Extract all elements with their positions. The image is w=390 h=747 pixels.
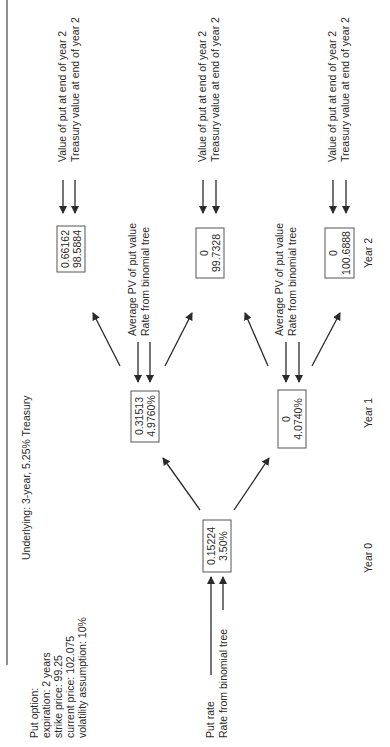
node-value: 0 [327, 250, 339, 256]
node-rate: 4.9760% [145, 395, 157, 436]
node-value: 0.66162 [59, 230, 71, 268]
legend-rate: Rate from binomial tree [139, 227, 151, 336]
legend-average-pv: Average PV of put value [273, 223, 285, 336]
branch-arrow-icon [234, 458, 269, 510]
node-year2-uu: 0.66162 98.5884 [57, 226, 85, 272]
put-option-heading: Put option: [28, 688, 40, 738]
year2-legend-ud: Value of put at end of year 2 Treasury v… [196, 17, 221, 213]
put-option-strike: strike price: 99.25 [52, 655, 64, 738]
legend-rate: Rate from binomial tree [286, 227, 298, 336]
node-year0: 0.15224 3.50% [203, 520, 231, 572]
node-rate: 99.7328 [210, 234, 222, 272]
legend-treasury-value: Treasury value at end of year 2 [69, 17, 81, 162]
legend-average-pv: Average PV of put value [126, 223, 138, 336]
legend-treasury-value: Treasury value at end of year 2 [209, 17, 221, 162]
branch-arrow-icon [312, 313, 340, 366]
put-option-volatility: volatility assumption: 10% [76, 617, 88, 738]
legend-value-of-put: Value of put at end of year 2 [326, 31, 338, 162]
legend-treasury-value: Treasury value at end of year 2 [339, 17, 351, 162]
legend-value-of-put: Value of put at end of year 2 [196, 31, 208, 162]
year-label-2: Year 2 [362, 238, 374, 268]
node-value: 0.15224 [205, 527, 217, 565]
node-year1-up: 0.31513 4.9760% [131, 391, 159, 442]
node-rate: 3.50% [217, 531, 229, 561]
put-option-current-price: current price: 102.075 [64, 636, 76, 738]
node-year2-ud: 0 99.7328 [196, 228, 224, 278]
branch-arrow-icon [245, 313, 268, 366]
year2-legend-uu: Value of put at end of year 2 Treasury v… [56, 17, 81, 213]
year-label-0: Year 0 [362, 543, 374, 573]
year2-legend-dd: Value of put at end of year 2 Treasury v… [326, 17, 351, 213]
year1-legend-up: Average PV of put value Rate from binomi… [126, 223, 151, 382]
branch-arrow-icon [93, 313, 120, 366]
node-value: 0.31513 [133, 397, 145, 435]
year-label-1: Year 1 [362, 398, 374, 428]
put-option-info: Put option: expiration: 2 years strike p… [28, 617, 88, 738]
binomial-tree-diagram: Underlying: 3-year, 5.25% Treasury Put o… [0, 0, 390, 747]
node-rate: 4.0740% [292, 398, 304, 439]
branch-arrow-icon [165, 313, 192, 366]
node-year1-down: 0 4.0740% [278, 390, 306, 448]
node-value: 0 [280, 416, 292, 422]
branch-arrow-icon [163, 458, 200, 510]
legend-value-of-put: Value of put at end of year 2 [56, 31, 68, 162]
diagram-title: Underlying: 3-year, 5.25% Treasury [20, 395, 32, 560]
node-value: 0 [198, 250, 210, 256]
legend-put-rate: Put rate [204, 701, 216, 738]
node-rate: 98.5884 [71, 230, 83, 268]
put-option-expiration: expiration: 2 years [40, 652, 52, 738]
node-rate: 100.6888 [340, 231, 352, 275]
root-legend: Put rate Rate from binomial tree [204, 577, 229, 738]
legend-rate-from-tree: Rate from binomial tree [217, 629, 229, 738]
year1-legend-down: Average PV of put value Rate from binomi… [273, 223, 299, 382]
node-year2-dd: 0 100.6888 [325, 228, 354, 278]
